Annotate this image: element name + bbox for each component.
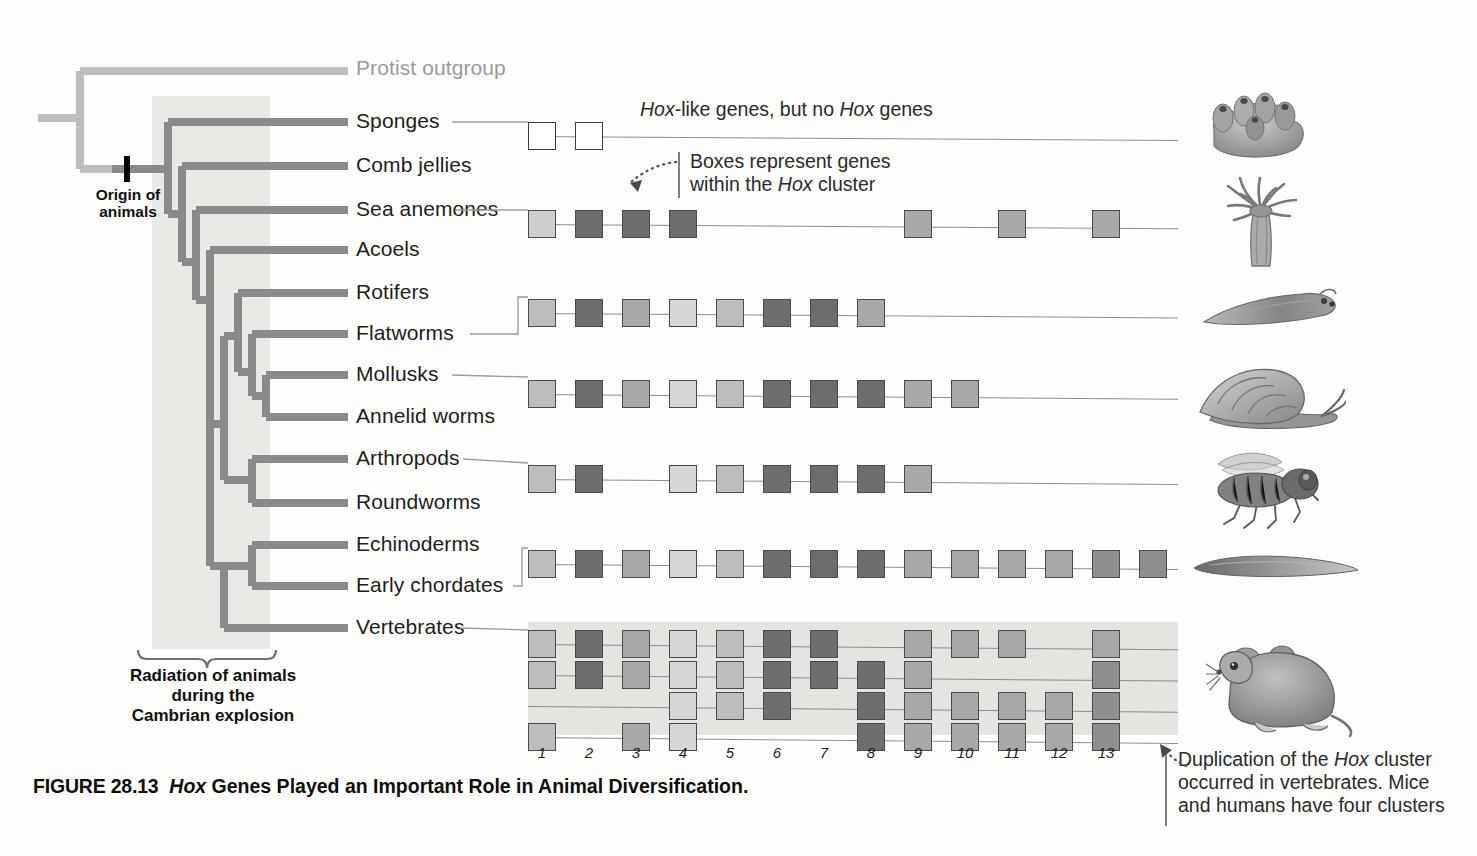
animal-illustration-snail (1196, 358, 1346, 438)
animal-illustration-lancelet (1190, 548, 1360, 588)
hox-gene-box (1092, 550, 1120, 578)
hox-gene-box (528, 210, 556, 238)
taxon-label-roundworms: Roundworms (356, 490, 481, 514)
hox-gene-box (575, 299, 603, 327)
animal-illustration-sea-anemone (1206, 170, 1316, 270)
hox-gene-box (951, 380, 979, 408)
hox-gene-box (1092, 661, 1120, 689)
hox-gene-box (951, 550, 979, 578)
hox-gene-box (622, 380, 650, 408)
hox-gene-box (669, 692, 697, 720)
hox-gene-box (716, 661, 744, 689)
hox-cluster-row (528, 550, 1178, 580)
hox-position-number: 7 (812, 744, 836, 761)
annotation-bar-boxes (678, 152, 680, 198)
hox-cluster-line (528, 479, 1178, 485)
hox-gene-box (575, 122, 603, 150)
taxon-label-arthropods: Arthropods (356, 446, 460, 470)
hox-gene-box (951, 630, 979, 658)
hox-gene-box (575, 380, 603, 408)
hox-gene-box (528, 661, 556, 689)
annotation-hox-like-genes: Hox-like genes, but no Hox genes (640, 98, 933, 121)
hox-position-number: 9 (906, 744, 930, 761)
hox-gene-box (528, 550, 556, 578)
hox-gene-box (669, 465, 697, 493)
hox-cluster-row (528, 210, 1178, 240)
hox-gene-box (575, 465, 603, 493)
hox-gene-box (575, 210, 603, 238)
hox-gene-box (763, 661, 791, 689)
hox-cluster-line (528, 706, 1178, 713)
hox-gene-box (904, 661, 932, 689)
hox-gene-box (810, 465, 838, 493)
taxon-label-early-chordates: Early chordates (356, 573, 503, 597)
hox-gene-box (857, 380, 885, 408)
hox-cluster-row (528, 465, 1178, 495)
hox-cluster-row (528, 692, 1178, 722)
hox-gene-box (810, 299, 838, 327)
hox-position-number: 6 (765, 744, 789, 761)
hox-gene-box (857, 465, 885, 493)
hox-gene-box (669, 210, 697, 238)
hox-position-number: 8 (859, 744, 883, 761)
hox-gene-box (622, 630, 650, 658)
hox-gene-box (1092, 210, 1120, 238)
hox-gene-box (716, 299, 744, 327)
hox-cluster-row (528, 380, 1178, 410)
hox-gene-box (904, 550, 932, 578)
taxon-label-comb-jellies: Comb jellies (356, 153, 472, 177)
hox-gene-box (763, 550, 791, 578)
animal-illustration-sponge (1196, 88, 1326, 168)
hox-gene-box (810, 630, 838, 658)
taxon-label-mollusks: Mollusks (356, 362, 438, 386)
hox-gene-box (575, 550, 603, 578)
figure-number: FIGURE 28.13 (33, 775, 158, 797)
hox-gene-box (1045, 692, 1073, 720)
hox-gene-box (904, 380, 932, 408)
hox-gene-box (763, 299, 791, 327)
animal-illustration-flatworm (1198, 282, 1348, 338)
hox-position-number: 4 (671, 744, 695, 761)
taxon-label-protist-outgroup: Protist outgroup (356, 56, 506, 80)
hox-gene-box (575, 630, 603, 658)
animal-illustration-fly (1200, 440, 1340, 530)
hox-position-number: 3 (624, 744, 648, 761)
hox-gene-box (810, 380, 838, 408)
taxon-label-rotifers: Rotifers (356, 280, 429, 304)
figure-hox-genes-phylogeny: Protist outgroup Sponges Comb jellies Se… (0, 0, 1477, 856)
hox-gene-box (857, 692, 885, 720)
hox-gene-box (998, 550, 1026, 578)
hox-gene-box (528, 465, 556, 493)
hox-gene-box (622, 661, 650, 689)
hox-gene-box (622, 210, 650, 238)
hox-gene-box (857, 299, 885, 327)
taxon-label-sea-anemones: Sea anemones (356, 197, 498, 221)
taxon-label-flatworms: Flatworms (356, 321, 454, 345)
figure-caption-text: Genes Played an Important Role in Animal… (206, 775, 748, 797)
hox-gene-box (763, 692, 791, 720)
hox-gene-box (669, 299, 697, 327)
hox-gene-box (716, 630, 744, 658)
figure-caption-hox: Hox (169, 775, 206, 797)
hox-gene-box (1092, 692, 1120, 720)
cambrian-radiation-label: Radiation of animalsduring theCambrian e… (72, 666, 354, 726)
hox-gene-box (528, 122, 556, 150)
taxon-label-acoels: Acoels (356, 237, 420, 261)
animal-illustration-mouse (1206, 630, 1356, 740)
cambrian-radiation-band (152, 96, 270, 649)
hox-gene-box (1092, 630, 1120, 658)
hox-gene-box (998, 210, 1026, 238)
hox-position-number: 1 (530, 744, 554, 761)
figure-caption: FIGURE 28.13 Hox Genes Played an Importa… (33, 775, 748, 798)
hox-gene-box (528, 380, 556, 408)
hox-gene-box (998, 630, 1026, 658)
hox-gene-box (716, 465, 744, 493)
hox-gene-box (810, 550, 838, 578)
hox-gene-box (857, 661, 885, 689)
taxon-label-echinoderms: Echinoderms (356, 532, 480, 556)
hox-gene-box (669, 630, 697, 658)
hox-gene-box (904, 630, 932, 658)
hox-position-number: 11 (1000, 744, 1024, 761)
hox-gene-box (951, 692, 979, 720)
hox-gene-box (1045, 550, 1073, 578)
